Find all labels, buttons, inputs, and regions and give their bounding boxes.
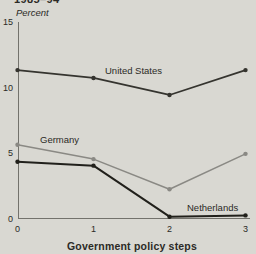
data-point-marker [91, 163, 95, 167]
y-tick-label: 5 [8, 148, 13, 158]
data-point-marker [243, 152, 247, 156]
series-label-united-states: United States [105, 65, 162, 76]
line-chart: 0510150123United StatesGermanyNetherland… [0, 0, 256, 254]
data-point-marker [91, 76, 95, 80]
y-tick-label: 0 [8, 214, 13, 224]
data-point-marker [167, 214, 171, 218]
x-tick-label: 3 [243, 224, 248, 234]
x-tick-label: 2 [167, 224, 172, 234]
data-point-marker [91, 157, 95, 161]
data-point-marker [15, 68, 19, 72]
data-point-marker [167, 93, 171, 97]
data-point-marker [15, 142, 19, 146]
x-tick-label: 0 [15, 224, 20, 234]
data-point-marker [167, 187, 171, 191]
series-label-netherlands: Netherlands [187, 202, 238, 213]
x-axis-title: Government policy steps [18, 240, 246, 252]
y-tick-label: 15 [3, 17, 13, 27]
series-line-germany [18, 145, 246, 190]
data-point-marker [15, 160, 19, 164]
x-tick-label: 1 [91, 224, 96, 234]
data-point-marker [243, 213, 247, 217]
series-label-germany: Germany [40, 134, 79, 145]
data-point-marker [243, 68, 247, 72]
chart-panel: 1985–94 Percent 0510150123United StatesG… [0, 0, 256, 254]
y-tick-label: 10 [3, 83, 13, 93]
